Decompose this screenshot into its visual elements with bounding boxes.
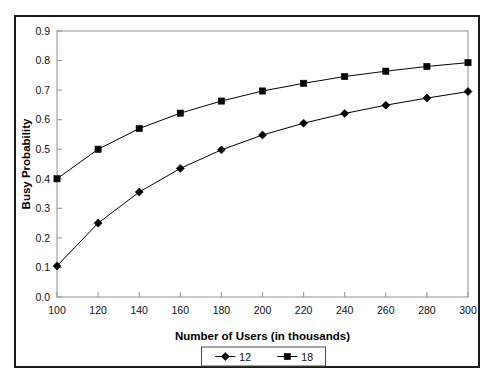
x-axis-tick-label: 120: [89, 304, 107, 316]
x-axis-tick-label: 160: [172, 304, 190, 316]
x-axis-tick-label: 260: [377, 304, 395, 316]
y-axis-tick-label: 0.0: [35, 291, 50, 303]
data-point-marker: [301, 80, 307, 86]
y-axis-title: Busy Probability: [20, 118, 32, 209]
line-chart: 0.00.10.20.30.40.50.60.70.80.91001201401…: [0, 0, 495, 383]
data-point-marker: [424, 63, 430, 69]
y-axis-tick-label: 0.2: [35, 232, 50, 244]
y-axis-tick-label: 0.7: [35, 84, 50, 96]
data-point-marker: [258, 131, 266, 139]
data-point-marker: [217, 146, 225, 154]
x-axis-tick-label: 220: [295, 304, 313, 316]
data-point-marker: [342, 73, 348, 79]
chart-figure: 0.00.10.20.30.40.50.60.70.80.91001201401…: [0, 0, 495, 383]
data-point-marker: [135, 188, 143, 196]
x-axis-tick-label: 100: [48, 304, 66, 316]
plot-area-border: [57, 31, 468, 297]
data-point-marker: [341, 109, 349, 117]
y-axis-tick-label: 0.1: [35, 261, 50, 273]
y-axis-tick-label: 0.3: [35, 202, 50, 214]
y-axis-tick-label: 0.4: [35, 173, 50, 185]
data-point-marker: [465, 60, 471, 66]
data-point-marker: [423, 94, 431, 102]
data-point-marker: [382, 101, 390, 109]
data-point-marker: [300, 119, 308, 127]
y-axis-tick-label: 0.8: [35, 54, 50, 66]
data-point-marker: [136, 125, 142, 131]
y-axis-tick-label: 0.9: [35, 25, 50, 37]
x-axis-tick-label: 180: [213, 304, 231, 316]
x-axis-tick-label: 140: [130, 304, 148, 316]
data-series-12: [53, 88, 472, 270]
data-point-marker: [176, 164, 184, 172]
series-line: [57, 92, 468, 266]
data-point-marker: [259, 88, 265, 94]
data-point-marker: [464, 88, 472, 96]
data-point-marker: [95, 146, 101, 152]
y-axis-tick-label: 0.6: [35, 113, 50, 125]
y-axis-tick-label: 0.5: [35, 143, 50, 155]
x-axis-tick-label: 200: [254, 304, 272, 316]
legend-marker: [284, 353, 290, 359]
legend-label: 18: [301, 351, 313, 363]
x-axis-tick-label: 300: [459, 304, 477, 316]
data-point-marker: [177, 110, 183, 116]
x-axis-title: Number of Users (in thousands): [175, 330, 350, 342]
series-line: [57, 63, 468, 179]
data-point-marker: [54, 176, 60, 182]
legend-label: 12: [239, 351, 251, 363]
data-point-marker: [383, 68, 389, 74]
data-series-18: [54, 60, 471, 182]
data-point-marker: [218, 98, 224, 104]
x-axis-tick-label: 280: [418, 304, 436, 316]
x-axis-tick-label: 240: [336, 304, 354, 316]
